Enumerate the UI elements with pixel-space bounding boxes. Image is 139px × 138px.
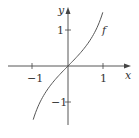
y-tick-label-pos1: 1: [57, 24, 64, 37]
x-axis-label: x: [125, 69, 132, 82]
function-graph: −1 1 1 −1 x y f: [0, 0, 139, 138]
x-tick-label-pos1: 1: [100, 72, 107, 85]
curve-label-f: f: [101, 24, 108, 37]
x-tick-label-neg1: −1: [27, 72, 43, 85]
plot-area: −1 1 1 −1 x y f: [0, 0, 139, 138]
y-axis-label: y: [57, 4, 65, 17]
y-tick-label-neg1: −1: [51, 96, 67, 109]
y-axis-arrow-icon: [66, 7, 71, 14]
x-axis-arrow-icon: [124, 64, 131, 69]
